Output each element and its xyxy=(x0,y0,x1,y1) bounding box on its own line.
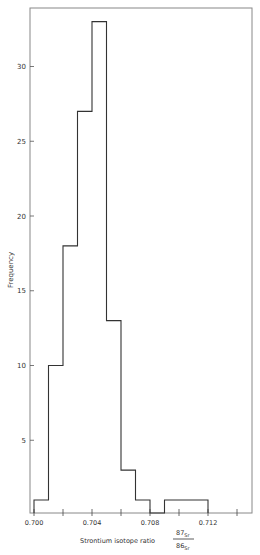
histogram-outline xyxy=(34,22,208,513)
x-tick-label: 0.708 xyxy=(141,519,160,527)
x-tick-label: 0.712 xyxy=(199,519,218,527)
y-tick-label: 20 xyxy=(17,213,26,221)
y-axis-ticks: 51015202530 xyxy=(17,63,34,445)
y-tick-label: 10 xyxy=(17,362,26,370)
y-axis-label: Frequency xyxy=(7,252,15,288)
y-tick-label: 25 xyxy=(17,138,26,146)
y-tick-label: 15 xyxy=(17,287,26,295)
x-axis-label: Strontium isotope ratio xyxy=(80,537,155,545)
x-tick-label: 0.700 xyxy=(25,519,44,527)
y-tick-label: 30 xyxy=(17,63,26,71)
svg-text:87Sr: 87Sr xyxy=(176,529,190,538)
y-tick-label: 5 xyxy=(22,437,26,445)
svg-text:86Sr: 86Sr xyxy=(176,542,190,551)
histogram-chart: 51015202530 0.7000.7040.7080.712 Frequen… xyxy=(0,0,260,555)
x-axis-ticks: 0.7000.7040.7080.712 xyxy=(25,509,237,527)
ratio-fraction: 87Sr 86Sr xyxy=(173,529,194,551)
histogram-bars xyxy=(34,22,208,513)
x-tick-label: 0.704 xyxy=(83,519,102,527)
